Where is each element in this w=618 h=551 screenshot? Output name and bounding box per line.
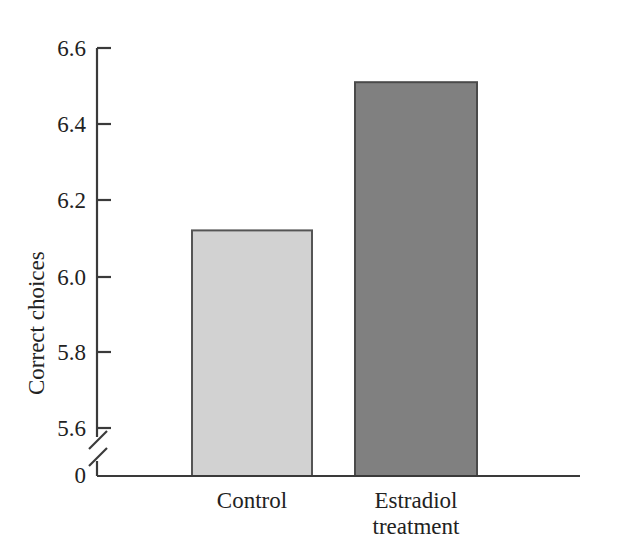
y-tick-label-6-6: 6.6 bbox=[18, 37, 86, 60]
y-tick-label-5-6: 5.6 bbox=[18, 417, 86, 440]
x-category-label-estradiol-line1: Estradiol bbox=[326, 488, 506, 514]
y-tick-label-6-4: 6.4 bbox=[18, 113, 86, 136]
y-tick-label-5-8: 5.8 bbox=[18, 341, 86, 364]
y-tick-label-6-2: 6.2 bbox=[18, 189, 86, 212]
x-category-label-estradiol-treatment: Estradiol treatment bbox=[326, 488, 506, 540]
y-tick-label-6-0: 6.0 bbox=[18, 266, 86, 289]
y-tick-label-zero: 0 bbox=[18, 464, 86, 487]
bar-estradiol-treatment bbox=[355, 82, 477, 476]
chart-plot-area bbox=[0, 0, 618, 551]
x-category-label-estradiol-line2: treatment bbox=[326, 514, 506, 540]
x-category-label-control-line1: Control bbox=[162, 488, 342, 514]
bar-control bbox=[192, 230, 312, 476]
bar-chart-figure: Correct choices 6.6 6.4 6.2 6.0 5.8 5.6 … bbox=[0, 0, 618, 551]
x-category-label-control: Control bbox=[162, 488, 342, 514]
